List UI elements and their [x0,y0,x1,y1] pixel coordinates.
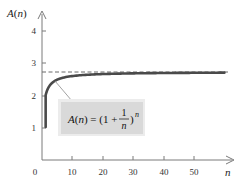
x-tick-label-50: 50 [190,167,200,177]
x-ticks: 0 10 20 30 40 50 [33,156,199,177]
x-axis-label: n [225,166,231,178]
y-tick-label-4: 4 [32,26,37,36]
x-tick-label-20: 20 [99,167,109,177]
y-tick-label-1: 1 [32,123,37,133]
y-tick-label-2: 2 [32,91,37,101]
callout-formula: A(n) = (1 + [67,113,117,126]
callout-close-paren: ) [130,113,134,126]
y-ticks: 1 2 3 4 [32,26,47,133]
x-tick-label-0: 0 [33,167,38,177]
callout-exponent: n [135,110,139,119]
x-tick-label-30: 30 [129,167,139,177]
x-tick-label-10: 10 [68,167,78,177]
callout-frac-denominator: n [122,120,127,131]
chart: 1 2 3 4 0 10 20 30 40 50 A(n) n A(n) = (… [0,0,242,182]
callout-box: A(n) = (1 + 1 n ) n [58,99,145,136]
y-axis-label: A(n) [6,7,27,20]
x-tick-label-40: 40 [160,167,170,177]
y-tick-label-3: 3 [32,58,37,68]
callout-leader-line [55,81,72,101]
axes [38,11,234,164]
callout-frac-numerator: 1 [122,107,127,118]
